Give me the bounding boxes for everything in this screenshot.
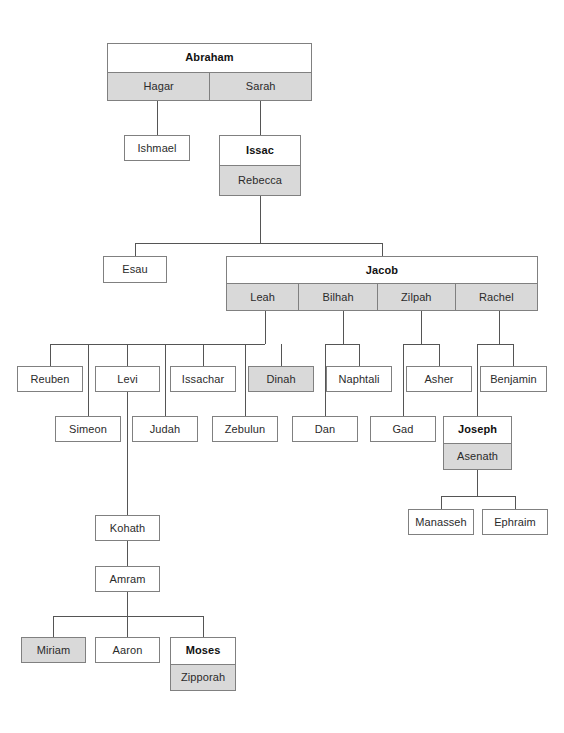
node-esau[interactable]: Esau [103, 256, 167, 283]
node-label-sarah: Sarah [210, 73, 311, 101]
node-simeon[interactable]: Simeon [55, 416, 121, 442]
node-label-esau: Esau [104, 257, 166, 282]
node-label-ephraim: Ephraim [483, 510, 547, 534]
node-ishmael[interactable]: Ishmael [124, 135, 190, 161]
node-gad[interactable]: Gad [370, 416, 436, 442]
node-aaron[interactable]: Aaron [95, 637, 160, 663]
node-label-amram: Amram [96, 567, 159, 591]
node-label-issachar: Issachar [171, 367, 235, 391]
node-label-zilpah: Zilpah [378, 284, 456, 310]
node-label-dinah: Dinah [249, 367, 313, 391]
spouse-row-abraham: Hagar Sarah [108, 72, 311, 101]
node-label-asher: Asher [407, 367, 471, 391]
node-label-manasseh: Manasseh [409, 510, 473, 534]
node-label-reuben: Reuben [18, 367, 82, 391]
node-issachar[interactable]: Issachar [170, 366, 236, 392]
node-label-levi: Levi [96, 367, 159, 391]
node-label-judah: Judah [133, 417, 197, 441]
node-jacob[interactable]: Jacob Leah Bilhah Zilpah Rachel [226, 256, 538, 311]
node-label-rachel: Rachel [456, 284, 537, 310]
node-label-issac: Issac [220, 136, 300, 165]
node-label-zipporah: Zipporah [171, 664, 235, 691]
node-reuben[interactable]: Reuben [17, 366, 83, 392]
node-label-abraham: Abraham [108, 44, 311, 72]
node-label-ishmael: Ishmael [125, 136, 189, 160]
node-label-gad: Gad [371, 417, 435, 441]
node-amram[interactable]: Amram [95, 566, 160, 592]
node-levi[interactable]: Levi [95, 366, 160, 392]
node-miriam[interactable]: Miriam [21, 637, 86, 663]
node-label-aaron: Aaron [96, 638, 159, 662]
spouse-row-jacob: Leah Bilhah Zilpah Rachel [227, 283, 537, 310]
node-dinah[interactable]: Dinah [248, 366, 314, 392]
node-dan[interactable]: Dan [292, 416, 358, 442]
node-issac[interactable]: Issac Rebecca [219, 135, 301, 196]
node-label-naphtali: Naphtali [327, 367, 391, 391]
node-label-hagar: Hagar [108, 73, 210, 101]
node-label-kohath: Kohath [96, 516, 159, 540]
node-label-dan: Dan [293, 417, 357, 441]
node-label-jacob: Jacob [227, 257, 537, 283]
node-label-leah: Leah [227, 284, 299, 310]
node-label-miriam: Miriam [22, 638, 85, 662]
node-judah[interactable]: Judah [132, 416, 198, 442]
node-label-zebulun: Zebulun [213, 417, 277, 441]
node-asher[interactable]: Asher [406, 366, 472, 392]
node-label-benjamin: Benjamin [481, 367, 546, 391]
node-label-asenath: Asenath [444, 443, 511, 470]
node-moses[interactable]: Moses Zipporah [170, 637, 236, 691]
family-tree-diagram: Abraham Hagar Sarah Ishmael Issac Rebecc… [0, 0, 564, 733]
node-label-rebecca: Rebecca [220, 165, 300, 195]
node-label-moses: Moses [171, 638, 235, 664]
node-joseph[interactable]: Joseph Asenath [443, 416, 512, 470]
node-naphtali[interactable]: Naphtali [326, 366, 392, 392]
node-zebulun[interactable]: Zebulun [212, 416, 278, 442]
node-label-joseph: Joseph [444, 417, 511, 443]
node-label-bilhah: Bilhah [299, 284, 378, 310]
node-label-simeon: Simeon [56, 417, 120, 441]
node-kohath[interactable]: Kohath [95, 515, 160, 541]
node-ephraim[interactable]: Ephraim [482, 509, 548, 535]
node-benjamin[interactable]: Benjamin [480, 366, 547, 392]
node-abraham[interactable]: Abraham Hagar Sarah [107, 43, 312, 101]
node-manasseh[interactable]: Manasseh [408, 509, 474, 535]
